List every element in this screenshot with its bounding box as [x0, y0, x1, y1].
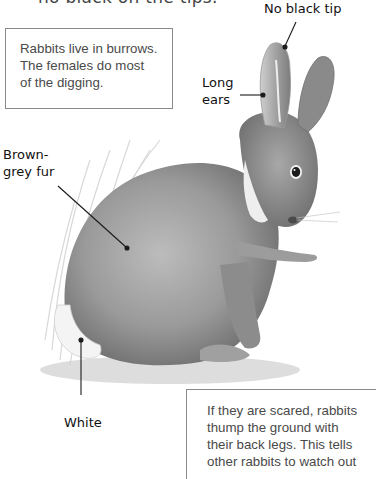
label-line: ears	[202, 91, 233, 108]
label-white-tail: White	[64, 414, 102, 431]
fact-line: thump the ground with	[207, 419, 376, 436]
fact-line: other rabbits to watch out	[207, 453, 376, 470]
label-line: grey fur	[3, 163, 54, 180]
fact-line: The females do most	[20, 57, 172, 74]
fact-box-thump: If they are scared, rabbits thump the gr…	[186, 389, 376, 479]
label-long-ears: Long ears	[202, 74, 233, 108]
fact-line: Rabbits live in burrows.	[20, 40, 172, 57]
fact-line: If they are scared, rabbits	[207, 402, 376, 419]
rabbit-ear-left	[260, 43, 290, 128]
label-line: Brown-	[3, 146, 54, 163]
fact-line: of the digging.	[20, 74, 172, 91]
label-brown-grey-fur: Brown- grey fur	[3, 146, 54, 180]
label-no-black-tip: No black tip	[264, 0, 341, 17]
label-line: Long	[202, 74, 233, 91]
fact-box-burrows: Rabbits live in burrows. The females do …	[5, 28, 173, 109]
fact-line: their back legs. This tells	[207, 436, 376, 453]
rabbit-ear-right	[298, 57, 334, 132]
